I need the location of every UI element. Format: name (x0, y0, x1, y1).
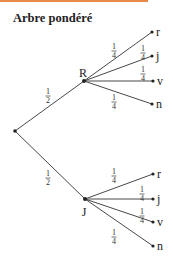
svg-text:1: 1 (112, 42, 116, 51)
probability-R-r: 14 (112, 42, 117, 60)
root-node (13, 129, 17, 133)
node-label-R: R (79, 66, 87, 80)
svg-text:4: 4 (112, 51, 116, 60)
svg-text:4: 4 (140, 194, 144, 203)
probability-J-n: 14 (112, 228, 117, 246)
svg-text:4: 4 (112, 102, 116, 111)
leaf-node-R-r (150, 30, 153, 33)
leaf-label-J-v: v (157, 215, 163, 229)
svg-text:1: 1 (141, 65, 145, 74)
leaf-label-R-n: n (156, 97, 162, 111)
leaf-node-R-j (150, 54, 153, 57)
svg-text:1: 1 (140, 185, 144, 194)
leaf-label-J-n: n (157, 239, 163, 253)
probability-root-J: 12 (46, 169, 51, 187)
svg-text:4: 4 (141, 53, 145, 62)
leaf-node-R-n (150, 102, 153, 105)
svg-text:2: 2 (46, 96, 50, 105)
leaf-label-R-v: v (157, 74, 163, 88)
svg-text:4: 4 (112, 176, 116, 185)
svg-text:2: 2 (46, 178, 50, 187)
node-label-J: J (82, 205, 87, 219)
probability-root-R: 12 (46, 87, 51, 105)
svg-text:4: 4 (141, 74, 145, 83)
svg-text:1: 1 (46, 169, 50, 178)
svg-text:1: 1 (141, 44, 145, 53)
svg-text:1: 1 (140, 207, 144, 216)
svg-text:1: 1 (112, 228, 116, 237)
edge-root-J (15, 131, 85, 199)
svg-text:1: 1 (112, 167, 116, 176)
svg-text:4: 4 (140, 216, 144, 225)
leaf-label-J-r: r (157, 167, 161, 181)
svg-text:1: 1 (112, 93, 116, 102)
leaf-node-J-n (151, 244, 154, 247)
probability-J-r: 14 (112, 167, 117, 185)
leaf-node-J-v (151, 220, 154, 223)
node-J (83, 197, 87, 201)
svg-text:1: 1 (46, 87, 50, 96)
probability-R-v: 14 (141, 65, 146, 83)
leaf-label-J-j: j (156, 192, 160, 206)
probability-R-j: 14 (141, 44, 146, 62)
weighted-tree: 1214r14j14v14nR1214r14j14v14nJ (0, 0, 173, 271)
svg-text:4: 4 (112, 237, 116, 246)
leaf-label-R-j: j (155, 49, 159, 63)
probability-J-v: 14 (140, 207, 145, 225)
leaf-node-J-r (151, 172, 154, 175)
leaf-label-R-r: r (156, 25, 160, 39)
edge-R-n (84, 81, 152, 104)
probability-J-j: 14 (140, 185, 145, 203)
leaf-node-J-j (151, 197, 154, 200)
probability-R-n: 14 (112, 93, 117, 111)
leaf-node-R-v (151, 79, 154, 82)
